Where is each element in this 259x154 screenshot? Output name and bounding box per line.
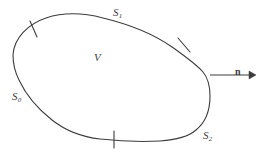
- surface-label-s0-base: S: [12, 90, 18, 102]
- normal-vector-label-base: n: [235, 66, 241, 77]
- control-volume-diagram: [0, 0, 259, 154]
- normal-vector-label: n: [235, 62, 241, 78]
- tick-upper-right-icon: [178, 38, 190, 52]
- outward-normal-arrow-head: [249, 71, 256, 79]
- region-label-v: V: [94, 48, 101, 64]
- surface-label-s1-subscript: 1: [119, 12, 123, 20]
- surface-label-s2-subscript: 2: [209, 135, 213, 143]
- surface-label-s2-base: S: [203, 129, 209, 141]
- surface-label-s0: S0: [12, 87, 21, 104]
- surface-label-s2: S2: [203, 126, 212, 143]
- control-volume-boundary: [13, 14, 210, 142]
- region-label-v-base: V: [94, 51, 101, 63]
- figure-canvas: S1 S0 S2 V n: [0, 0, 259, 154]
- surface-label-s1-base: S: [113, 6, 119, 18]
- surface-label-s1: S1: [113, 3, 122, 20]
- surface-label-s0-subscript: 0: [18, 96, 22, 104]
